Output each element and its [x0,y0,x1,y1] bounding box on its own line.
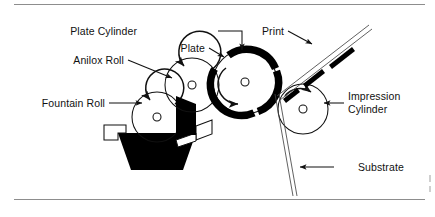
label-impression-cylinder-line2: Cylinder [348,103,388,115]
label-substrate: Substrate [358,161,404,173]
plate-leader [209,48,224,57]
label-plate: Plate [181,42,205,54]
label-anilox-roll: Anilox Roll [73,54,124,66]
print-leader [288,31,312,44]
plate-cylinder [210,49,278,115]
label-fountain-roll: Fountain Roll [42,97,105,109]
label-print: Print [262,25,284,37]
fountain-roll [132,69,184,142]
label-impression-cylinder-line1: Impression [348,90,400,102]
label-plate-cylinder: Plate Cylinder [70,25,137,37]
figure-canvas: Plate Cylinder Plate Print Anilox Roll F… [0,0,435,217]
plate-cylinder-rotation-arrow [218,68,238,104]
plate-band [210,49,278,115]
page-edge-artifact [429,186,431,192]
ink-transfer-nip [176,96,196,135]
impression-cylinder [278,84,328,134]
press-diagram: Plate Cylinder Plate Print Anilox Roll F… [0,0,435,217]
page-edge-artifact [429,175,431,182]
